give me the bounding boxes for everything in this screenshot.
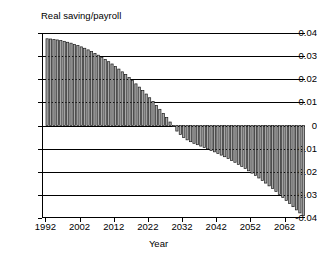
bar — [142, 91, 144, 126]
x-axis-title: Year — [0, 238, 317, 250]
bar — [244, 126, 246, 169]
bar — [186, 126, 188, 140]
bar — [87, 50, 89, 126]
y-axis-tick-mark — [38, 218, 42, 219]
bar — [70, 43, 72, 125]
plot-area — [42, 33, 305, 218]
bar — [292, 126, 294, 207]
x-axis-tick-mark — [182, 218, 183, 222]
x-axis-tick-mark — [148, 218, 149, 222]
bar — [213, 126, 215, 152]
bar — [302, 126, 304, 216]
bar — [97, 55, 99, 125]
bar — [159, 109, 161, 125]
bar — [138, 87, 140, 125]
bar — [66, 42, 68, 125]
bar — [176, 126, 178, 132]
bar — [271, 126, 273, 189]
bar — [193, 126, 195, 144]
bar — [49, 39, 51, 125]
bar — [73, 44, 75, 125]
bar — [179, 126, 181, 135]
bar — [282, 126, 284, 198]
bar — [46, 39, 48, 126]
bar — [189, 126, 191, 142]
bar — [196, 126, 198, 145]
bar — [114, 67, 116, 126]
x-axis-tick-mark — [80, 218, 81, 222]
bar — [268, 126, 270, 186]
bar — [237, 126, 239, 165]
bar — [254, 126, 256, 176]
bar — [207, 126, 209, 149]
bar — [111, 64, 113, 126]
bar — [128, 78, 130, 126]
chart-container: Real saving/payroll 0.040.030.020.010-0.… — [0, 0, 317, 261]
bar — [258, 126, 260, 178]
bar — [125, 75, 127, 126]
bar — [118, 69, 120, 125]
bar — [224, 126, 226, 157]
bar — [241, 126, 243, 167]
bar-series — [42, 33, 305, 218]
x-axis-tick-mark — [216, 218, 217, 222]
bar — [107, 62, 109, 126]
bar — [104, 59, 106, 125]
bar — [121, 72, 123, 126]
bar — [162, 113, 164, 125]
bar — [60, 41, 62, 126]
bar — [200, 126, 202, 147]
bar — [145, 94, 147, 125]
bar — [63, 41, 65, 125]
bar — [155, 105, 157, 125]
x-axis-tick-mark — [285, 218, 286, 222]
bar — [275, 126, 277, 192]
bar — [210, 126, 212, 151]
bar — [299, 126, 301, 213]
bar — [261, 126, 263, 181]
bar — [135, 84, 137, 126]
bar — [101, 57, 103, 125]
bar — [166, 118, 168, 126]
x-axis-tick-label: 2062 — [265, 221, 305, 232]
x-axis-tick-mark — [250, 218, 251, 222]
bar — [248, 126, 250, 171]
bar — [278, 126, 280, 195]
x-axis-tick-mark — [114, 218, 115, 222]
bar — [80, 47, 82, 126]
bar — [220, 126, 222, 156]
bar — [265, 126, 267, 184]
bar — [227, 126, 229, 159]
bar — [217, 126, 219, 154]
bar — [203, 126, 205, 148]
bar — [183, 126, 185, 138]
bar — [131, 81, 133, 126]
bar — [56, 40, 58, 126]
bar — [90, 52, 92, 126]
bar — [234, 126, 236, 163]
bar — [285, 126, 287, 201]
bar — [84, 48, 86, 125]
y-axis-title: Real saving/payroll — [41, 10, 121, 22]
bar — [152, 101, 154, 125]
bar — [53, 39, 55, 125]
bar — [172, 126, 174, 127]
bar — [295, 126, 297, 210]
bar — [94, 53, 96, 125]
bar — [169, 122, 171, 125]
bar — [289, 126, 291, 204]
bar — [148, 98, 150, 126]
bar — [77, 45, 79, 125]
x-axis-tick-mark — [45, 218, 46, 222]
bar — [230, 126, 232, 161]
bar — [251, 126, 253, 174]
